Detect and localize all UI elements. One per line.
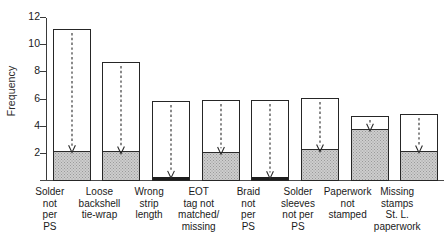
bar	[400, 114, 438, 181]
y-axis-label: Frequency	[0, 0, 22, 182]
x-axis-category-label: Missing stamps St. L. paperwork	[368, 186, 426, 232]
y-axis-tick	[40, 17, 46, 18]
y-axis-tick	[40, 71, 46, 72]
frequency-bar-chart: Frequency 24681012 Solder not per PSLoos…	[0, 0, 444, 247]
dashed-down-arrow-icon	[117, 66, 126, 154]
dashed-down-arrow-icon	[365, 120, 374, 131]
y-axis-tick-label: 4	[24, 120, 40, 131]
x-axis-category-labels: Solder not per PSLoose backshell tie-wra…	[25, 186, 422, 247]
bar-shaded-fill	[302, 149, 338, 180]
y-axis-tick	[40, 44, 46, 45]
dashed-down-arrow-icon	[67, 33, 76, 153]
dashed-down-arrow-icon	[266, 104, 275, 178]
dashed-down-arrow-icon	[167, 105, 176, 178]
y-axis-tick-label: 2	[24, 147, 40, 158]
bar	[202, 100, 240, 181]
bar	[251, 100, 289, 181]
bar	[53, 29, 91, 181]
bar-shaded-fill	[203, 152, 239, 180]
y-axis-tick	[40, 99, 46, 100]
y-axis-label-text: Frequency	[5, 66, 17, 117]
bar	[152, 101, 190, 181]
dashed-down-arrow-icon	[315, 102, 324, 152]
y-axis-tick-label: 12	[24, 11, 40, 22]
bar-shaded-fill	[352, 129, 388, 180]
plot-area: 24681012	[22, 10, 444, 185]
bar-shaded-fill	[54, 151, 90, 181]
y-axis-tick	[40, 126, 46, 127]
dashed-down-arrow-icon	[415, 118, 424, 153]
bar	[301, 98, 339, 181]
bar	[351, 116, 389, 181]
y-axis-tick-label: 10	[24, 38, 40, 49]
y-axis-tick-label: 8	[24, 65, 40, 76]
y-axis-tick-label: 6	[24, 93, 40, 104]
dashed-down-arrow-icon	[216, 104, 225, 154]
bar-shaded-fill	[401, 151, 437, 181]
bar-group	[47, 10, 444, 181]
y-axis-tick	[40, 153, 46, 154]
bar-shaded-fill	[103, 151, 139, 180]
bar	[102, 62, 140, 181]
